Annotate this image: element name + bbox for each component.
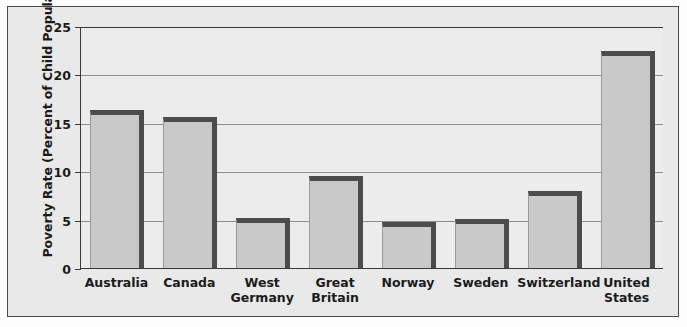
category-label: GreatBritain [299, 275, 372, 305]
y-tick-25 [75, 27, 81, 28]
category-label-line: States [590, 290, 663, 305]
category-label-line: Canada [153, 275, 226, 290]
category-label: Canada [153, 275, 226, 290]
y-tick-label-5: 5 [62, 213, 71, 228]
category-label-line: Switzerland [517, 275, 590, 290]
category-label: UnitedStates [590, 275, 663, 305]
y-tick-15 [75, 124, 81, 125]
bar [90, 110, 144, 268]
category-label: WestGermany [226, 275, 299, 305]
category-label-line: Sweden [444, 275, 517, 290]
bar [236, 218, 290, 268]
bar [455, 219, 509, 268]
y-axis-title: Poverty Rate (Percent of Child Populatio… [40, 8, 55, 258]
bar [382, 222, 436, 268]
category-label-line: Germany [226, 290, 299, 305]
y-tick-label-25: 25 [54, 20, 71, 35]
category-label: Australia [80, 275, 153, 290]
figure-frame: Poverty Rate (Percent of Child Populatio… [7, 6, 679, 317]
category-label: Norway [372, 275, 445, 290]
y-tick-10 [75, 172, 81, 173]
plot-area: 0510152025 [80, 27, 663, 269]
category-label: Switzerland [517, 275, 590, 290]
y-tick-label-10: 10 [54, 165, 71, 180]
category-label: Sweden [444, 275, 517, 290]
chart-page: Poverty Rate (Percent of Child Populatio… [0, 0, 687, 327]
y-tick-5 [75, 221, 81, 222]
category-label-line: Great [299, 275, 372, 290]
bar [528, 191, 582, 268]
category-label-line: Australia [80, 275, 153, 290]
y-tick-label-20: 20 [54, 68, 71, 83]
y-tick-label-0: 0 [62, 262, 71, 277]
bar [601, 51, 655, 268]
gridline-25 [81, 27, 663, 28]
y-tick-0 [75, 269, 81, 270]
category-label-line: Britain [299, 290, 372, 305]
y-tick-label-15: 15 [54, 116, 71, 131]
category-label-line: West [226, 275, 299, 290]
category-label-line: Norway [372, 275, 445, 290]
gridline-20 [81, 75, 663, 76]
bar [309, 176, 363, 268]
y-tick-20 [75, 75, 81, 76]
category-label-line: United [590, 275, 663, 290]
bar [163, 117, 217, 268]
